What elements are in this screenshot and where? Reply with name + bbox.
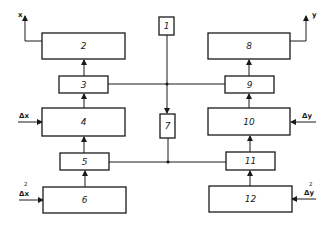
input-12-label: Δy bbox=[304, 189, 314, 197]
svg-text:10: 10 bbox=[243, 117, 255, 127]
block-6: 6 bbox=[43, 187, 126, 213]
block-2: 2 bbox=[42, 33, 125, 59]
block-4: 4 bbox=[42, 108, 125, 136]
svg-text:8: 8 bbox=[246, 41, 252, 51]
output-y-line bbox=[290, 16, 306, 41]
block-8: 8 bbox=[208, 33, 290, 59]
block-5: 5 bbox=[60, 153, 109, 170]
svg-text:4: 4 bbox=[81, 117, 87, 127]
svg-text:6: 6 bbox=[82, 195, 88, 205]
svg-text:2: 2 bbox=[81, 41, 87, 51]
input-6-label: Δx bbox=[19, 190, 29, 198]
block-3: 3 bbox=[59, 76, 108, 93]
block-12: 12 bbox=[209, 186, 292, 212]
svg-text:3: 3 bbox=[81, 80, 87, 90]
output-x-label: x bbox=[18, 11, 23, 19]
input-12-superscript: 2 bbox=[309, 181, 313, 187]
svg-text:11: 11 bbox=[245, 156, 256, 166]
svg-text:12: 12 bbox=[245, 194, 257, 204]
block-1: 1 bbox=[159, 17, 174, 35]
input-4-label: Δx bbox=[19, 112, 29, 120]
block-11: 11 bbox=[226, 152, 275, 170]
svg-text:5: 5 bbox=[82, 157, 88, 167]
block-7: 7 bbox=[160, 114, 175, 138]
block-10: 10 bbox=[208, 108, 290, 135]
svg-text:1: 1 bbox=[164, 21, 170, 31]
block-diagram: x y Δx Δx 2 Δy Δy 2 1 2 3 4 5 6 7 8 bbox=[0, 0, 336, 227]
input-6-superscript: 2 bbox=[24, 181, 28, 187]
output-y-label: y bbox=[312, 11, 317, 19]
output-x-line bbox=[25, 16, 42, 41]
input-10-label: Δy bbox=[302, 112, 312, 120]
block-9: 9 bbox=[225, 76, 274, 93]
svg-text:9: 9 bbox=[247, 80, 253, 90]
svg-text:7: 7 bbox=[165, 121, 171, 131]
